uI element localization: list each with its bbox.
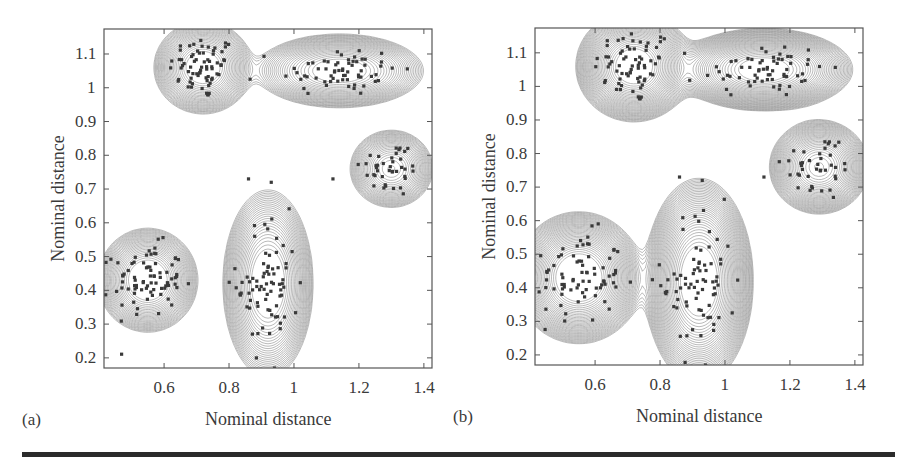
y-tick-label: 0.3 [506,311,527,331]
y-axis-label: Nominal distance [479,133,500,259]
x-tick-label: 0.6 [585,375,606,395]
x-tick-label: 1.2 [779,375,800,395]
y-tick-label: 0.6 [506,211,527,231]
x-tick-label: 1.4 [844,375,865,395]
y-tick-label: 0.8 [506,144,527,164]
x-tick-label: 0.8 [650,375,671,395]
y-tick-label: 0.5 [506,244,527,264]
bottom-rule [22,452,895,457]
y-tick-label: 0.7 [506,177,527,197]
x-axis-label: Nominal distance [636,406,762,427]
y-tick-label: 0.2 [506,345,527,365]
x-tick-label: 1 [720,375,729,395]
y-tick-label: 1 [518,76,527,96]
y-tick-label: 0.4 [506,278,527,298]
y-tick-label: 1.1 [506,43,527,63]
contour-plot-b [0,0,905,465]
y-tick-label: 0.9 [506,110,527,130]
panel-tag: (b) [453,407,473,427]
